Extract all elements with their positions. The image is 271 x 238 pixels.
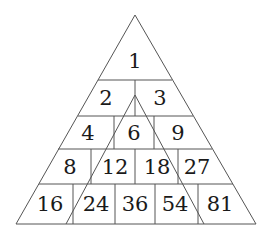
cell-value: 12 bbox=[102, 155, 129, 179]
cell-value: 24 bbox=[83, 192, 110, 216]
cell-value: 16 bbox=[37, 192, 64, 216]
cell-value: 6 bbox=[127, 121, 140, 145]
cell-value: 18 bbox=[144, 155, 171, 179]
cell-value: 3 bbox=[153, 86, 166, 110]
cell-value: 54 bbox=[162, 192, 189, 216]
cell-value: 9 bbox=[171, 121, 184, 145]
cell-value: 81 bbox=[207, 192, 234, 216]
cell-value: 36 bbox=[122, 192, 149, 216]
cell-value: 27 bbox=[184, 155, 211, 179]
cell-value: 4 bbox=[81, 121, 94, 145]
number-triangle-diagram: 1 2 3 4 6 9 8 12 18 27 16 24 36 54 81 bbox=[0, 0, 271, 238]
cell-value: 1 bbox=[128, 49, 141, 73]
cell-value: 2 bbox=[99, 86, 112, 110]
cell-value: 8 bbox=[63, 155, 76, 179]
